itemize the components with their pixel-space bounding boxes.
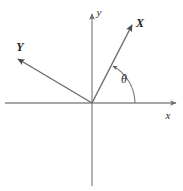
theta-angle-label: θ — [121, 72, 127, 86]
rotated-x-axis-label: X — [135, 16, 145, 30]
rotated-x-axis-ray — [92, 25, 132, 103]
rotated-y-axis-label: Y — [16, 40, 25, 54]
x-axis-label: x — [165, 109, 171, 121]
rotated-y-axis-ray — [18, 59, 92, 103]
rotation-axes-figure: x y X Y θ — [0, 0, 183, 191]
figure-canvas: x y X Y θ — [0, 0, 183, 191]
y-axis-label: y — [96, 6, 102, 18]
